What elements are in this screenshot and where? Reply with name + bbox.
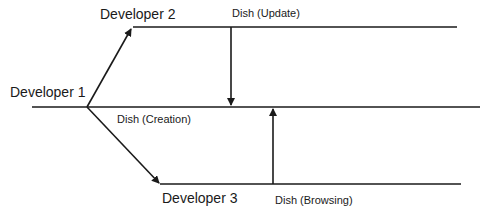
dish-creation-label: Dish (Creation) xyxy=(117,113,191,125)
fork-arrow-to-developer-2 xyxy=(87,29,131,107)
diagram-lines xyxy=(0,0,497,216)
developer-workflow-diagram: Developer 2 Developer 1 Developer 3 Dish… xyxy=(0,0,497,216)
developer-3-label: Developer 3 xyxy=(162,190,238,206)
dish-browsing-label: Dish (Browsing) xyxy=(275,194,353,206)
developer-1-label: Developer 1 xyxy=(10,84,86,100)
dish-update-label: Dish (Update) xyxy=(232,7,300,19)
developer-2-label: Developer 2 xyxy=(100,6,176,22)
